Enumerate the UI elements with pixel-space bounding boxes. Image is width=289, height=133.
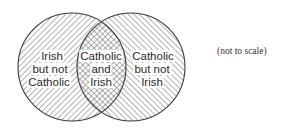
svg-text:Catholic: Catholic: [132, 50, 174, 62]
region-irish-only-line-1: Irish: [41, 50, 63, 62]
svg-text:Irish: Irish: [141, 76, 163, 88]
svg-text:but not: but not: [134, 63, 170, 75]
svg-text:Catholic: Catholic: [80, 50, 122, 62]
svg-text:Catholic: Catholic: [28, 76, 70, 88]
region-both-line-1: Catholic: [80, 50, 122, 62]
svg-text:Irish: Irish: [41, 50, 63, 62]
region-catholic-only-line-1: Catholic: [132, 50, 174, 62]
svg-text:Irish: Irish: [90, 76, 112, 88]
scale-note: (not to scale): [217, 46, 267, 56]
region-irish-only-line-3: Catholic: [28, 76, 70, 88]
svg-text:and: and: [91, 63, 110, 75]
region-irish-only-line-2: but not: [32, 63, 68, 75]
svg-text:but not: but not: [32, 63, 68, 75]
region-catholic-only-line-3: Irish: [141, 76, 163, 88]
region-both-line-2: and: [91, 63, 110, 75]
region-both-line-3: Irish: [90, 76, 112, 88]
venn-diagram: Irish but not Catholic Catholic and Iris…: [0, 0, 200, 133]
region-catholic-only-line-2: but not: [134, 63, 170, 75]
